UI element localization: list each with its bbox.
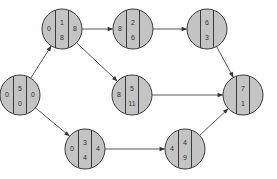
edge-arrow-n2-n5: [77, 43, 118, 81]
node-value-right: 4: [96, 145, 100, 152]
node-value-top: 3: [83, 139, 87, 146]
node-value-bottom: 1: [241, 100, 245, 107]
node-value-right: 0: [31, 91, 35, 98]
node-value-top: 1: [60, 19, 64, 26]
node-value-left: 4: [170, 145, 174, 152]
node-value-bottom: 9: [183, 154, 187, 161]
edge-arrow-n8-n6: [200, 109, 228, 135]
node-value-bottom: 6: [131, 34, 135, 41]
edge-arrow-n4-n6: [217, 47, 234, 77]
node-value-top: 2: [131, 19, 135, 26]
node-value-right: 8: [73, 25, 77, 32]
node-value-left: 0: [70, 145, 74, 152]
node-value-top: 5: [18, 85, 22, 92]
node-value-bottom: 11: [128, 100, 135, 107]
node-value-bottom: 4: [83, 154, 87, 161]
node-value-bottom: 8: [60, 34, 64, 41]
node-n6: 71: [223, 75, 263, 115]
node-value-bottom: 0: [18, 100, 22, 107]
node-circle: [187, 9, 227, 49]
edge-arrow-n1-n7: [35, 108, 69, 136]
node-n8: 449: [165, 129, 205, 169]
node-n7: 0344: [65, 129, 105, 169]
node-n3: 826: [113, 9, 153, 49]
node-value-left: 0: [5, 91, 9, 98]
node-value-top: 5: [130, 85, 134, 92]
network-diagram: 05000188826638511710344449: [0, 0, 277, 179]
nodes-layer: 05000188826638511710344449: [0, 9, 263, 169]
node-n4: 63: [187, 9, 227, 49]
node-value-top: 4: [183, 139, 187, 146]
node-value-bottom: 3: [205, 34, 209, 41]
node-value-top: 7: [241, 85, 245, 92]
node-circle: [223, 75, 263, 115]
node-n1: 0500: [0, 75, 40, 115]
node-value-top: 6: [205, 19, 209, 26]
node-value-left: 8: [117, 91, 121, 98]
node-n5: 8511: [112, 75, 152, 115]
node-n2: 0188: [42, 9, 82, 49]
node-value-left: 8: [118, 25, 122, 32]
node-value-left: 0: [47, 25, 51, 32]
edge-arrow-n1-n2: [31, 46, 51, 78]
